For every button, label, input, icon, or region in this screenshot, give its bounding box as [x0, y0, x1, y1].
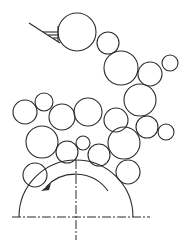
particle-circle: [136, 116, 158, 138]
rotation-arrow-icon: [41, 174, 108, 191]
particle-circle: [74, 98, 102, 126]
particle-drum-diagram: [0, 0, 187, 240]
particle-circle: [58, 13, 96, 51]
particle-circle: [49, 104, 75, 130]
particle-circle: [35, 93, 53, 111]
particle-circle: [138, 62, 162, 86]
particle-circle: [162, 55, 178, 71]
particle-circle: [88, 144, 110, 166]
particle-circle: [104, 108, 128, 132]
particle-circle: [23, 163, 47, 187]
particle-group: [13, 13, 178, 187]
particle-circle: [108, 127, 140, 159]
particle-circle: [104, 51, 138, 85]
particle-circle: [76, 136, 90, 150]
particle-circle: [13, 100, 37, 124]
particle-circle: [26, 126, 58, 158]
particle-circle: [97, 32, 119, 54]
fixed-support-icon: [29, 23, 60, 43]
particle-circle: [124, 84, 156, 116]
particle-circle: [158, 124, 174, 140]
